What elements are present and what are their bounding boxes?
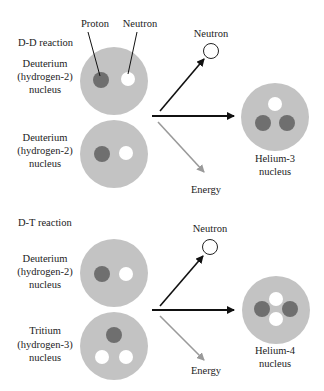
- dt-product-label-line1: Helium-4: [255, 345, 296, 356]
- neutron-icon: [204, 44, 219, 59]
- dd-reactant1-label-line2: (hydrogen-2): [17, 71, 73, 83]
- dt-neutron-out-label: Neutron: [193, 223, 228, 234]
- neutron-arrow: [160, 59, 204, 111]
- proton-icon: [94, 146, 110, 162]
- energy-arrow: [158, 122, 204, 172]
- dd-product-label-line2: nucleus: [259, 166, 291, 177]
- dt-product-label-line2: nucleus: [259, 358, 291, 369]
- neutron-icon: [121, 72, 135, 86]
- dt-reactant2-label-line3: nucleus: [29, 352, 61, 363]
- dd-neutron-out-label: Neutron: [194, 28, 229, 39]
- helium-4-nucleus-icon: [242, 276, 310, 344]
- proton-icon: [254, 301, 270, 317]
- neutron-icon: [95, 350, 109, 364]
- neutron-icon: [119, 350, 133, 364]
- neutron-icon: [269, 312, 283, 326]
- fusion-diagram: D-D reaction Proton Neutron Deuterium (h…: [0, 0, 324, 391]
- neutron-arrow: [160, 256, 203, 306]
- proton-icon: [282, 301, 298, 317]
- dd-reactant1-label-line3: nucleus: [29, 84, 61, 95]
- neutron-icon: [119, 267, 133, 281]
- deuterium-nucleus-icon: [80, 120, 148, 188]
- dt-reactant2-label-line2: (hydrogen-3): [17, 339, 73, 351]
- neutron-icon: [119, 146, 133, 160]
- dt-title: D-T reaction: [18, 217, 72, 228]
- dd-reactant2-label-line2: (hydrogen-2): [17, 145, 73, 157]
- dt-reactant1-label-line1: Deuterium: [23, 253, 68, 264]
- proton-icon: [279, 115, 295, 131]
- dd-reaction: D-D reaction Proton Neutron Deuterium (h…: [17, 18, 309, 195]
- proton-callout-label: Proton: [81, 18, 110, 29]
- dd-reactant1-label-line1: Deuterium: [23, 58, 68, 69]
- energy-arrow: [160, 316, 204, 360]
- neutron-icon: [269, 292, 283, 306]
- dd-product-label-line1: Helium-3: [255, 153, 295, 164]
- dd-title: D-D reaction: [18, 37, 74, 48]
- dt-reactant1-label-line2: (hydrogen-2): [17, 266, 73, 278]
- proton-icon: [255, 115, 271, 131]
- proton-icon: [93, 72, 109, 88]
- dd-energy-label: Energy: [191, 184, 222, 195]
- dt-reactant1-label-line3: nucleus: [29, 279, 61, 290]
- neutron-callout-label: Neutron: [123, 18, 158, 29]
- proton-icon: [106, 327, 122, 343]
- deuterium-nucleus-icon: [80, 47, 148, 115]
- dd-reactant2-label-line1: Deuterium: [23, 132, 68, 143]
- helium-3-nucleus-icon: [241, 83, 309, 151]
- deuterium-nucleus-icon: [80, 239, 148, 307]
- neutron-icon: [268, 97, 282, 111]
- dt-reaction: D-T reaction Deuterium (hydrogen-2) nucl…: [17, 217, 310, 380]
- dt-energy-label: Energy: [191, 365, 222, 376]
- tritium-nucleus-icon: [80, 312, 148, 380]
- proton-icon: [94, 266, 110, 282]
- dd-reactant2-label-line3: nucleus: [29, 158, 61, 169]
- dt-reactant2-label-line1: Tritium: [29, 325, 61, 336]
- neutron-icon: [203, 240, 218, 255]
